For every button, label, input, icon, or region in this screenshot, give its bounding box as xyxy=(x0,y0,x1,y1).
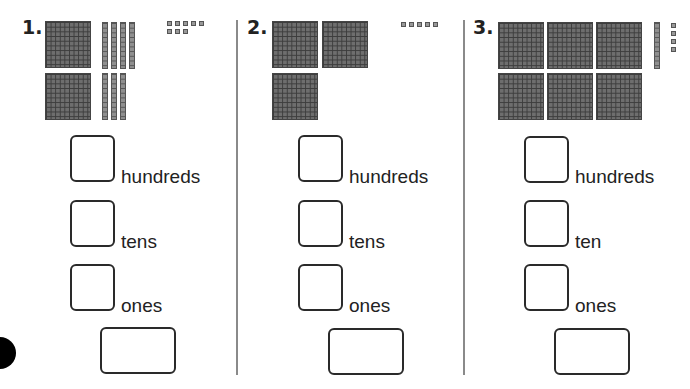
tens-label: tens xyxy=(121,232,157,251)
ten-rod xyxy=(102,73,108,120)
ten-rod xyxy=(111,73,117,120)
one-cube xyxy=(199,21,204,26)
one-cube xyxy=(175,21,180,26)
hundred-block xyxy=(322,21,368,68)
one-cube xyxy=(401,22,406,27)
ten-rod xyxy=(120,22,126,69)
ten-rod xyxy=(654,22,660,69)
one-cube xyxy=(167,29,172,34)
one-cube xyxy=(671,23,676,28)
hundred-block xyxy=(45,21,91,68)
hundred-block xyxy=(547,22,593,69)
tens-answer-box[interactable] xyxy=(524,200,569,247)
hundreds-answer-box[interactable] xyxy=(524,136,569,183)
one-cube xyxy=(671,39,676,44)
one-cube xyxy=(417,22,422,27)
problem-number: 2. xyxy=(247,16,267,38)
total-answer-box[interactable] xyxy=(554,328,630,375)
ones-answer-box[interactable] xyxy=(298,264,343,311)
one-cube xyxy=(183,21,188,26)
ten-rod xyxy=(120,73,126,120)
ones-answer-box[interactable] xyxy=(524,264,569,311)
one-cube xyxy=(191,21,196,26)
tens-label: ten xyxy=(575,232,601,251)
bullet-dot xyxy=(0,337,16,369)
hundred-block xyxy=(272,73,318,120)
hundreds-label: hundreds xyxy=(575,167,654,186)
column-divider xyxy=(236,20,238,375)
total-answer-box[interactable] xyxy=(328,328,404,375)
ones-label: ones xyxy=(121,296,162,315)
one-cube xyxy=(671,47,676,52)
hundreds-answer-box[interactable] xyxy=(70,135,115,182)
ten-rod xyxy=(102,22,108,69)
problem-number: 3. xyxy=(473,16,493,38)
hundred-block xyxy=(547,73,593,120)
hundred-block xyxy=(45,73,91,120)
column-divider xyxy=(463,20,465,375)
problem-number: 1. xyxy=(22,16,42,38)
tens-answer-box[interactable] xyxy=(298,200,343,247)
ones-answer-box[interactable] xyxy=(70,264,115,311)
tens-label: tens xyxy=(349,232,385,251)
one-cube xyxy=(425,22,430,27)
one-cube xyxy=(433,22,438,27)
hundreds-answer-box[interactable] xyxy=(298,135,343,182)
ones-label: ones xyxy=(349,296,390,315)
one-cube xyxy=(175,29,180,34)
ones-label: ones xyxy=(575,296,616,315)
ten-rod xyxy=(111,22,117,69)
one-cube xyxy=(183,29,188,34)
one-cube xyxy=(167,21,172,26)
one-cube xyxy=(409,22,414,27)
tens-answer-box[interactable] xyxy=(70,200,115,247)
one-cube xyxy=(671,31,676,36)
hundred-block xyxy=(596,22,642,69)
hundreds-label: hundreds xyxy=(349,167,428,186)
hundred-block xyxy=(596,73,642,120)
hundred-block xyxy=(498,22,544,69)
hundred-block xyxy=(272,21,318,68)
ten-rod xyxy=(129,22,135,69)
total-answer-box[interactable] xyxy=(100,327,176,374)
hundred-block xyxy=(498,73,544,120)
hundreds-label: hundreds xyxy=(121,167,200,186)
